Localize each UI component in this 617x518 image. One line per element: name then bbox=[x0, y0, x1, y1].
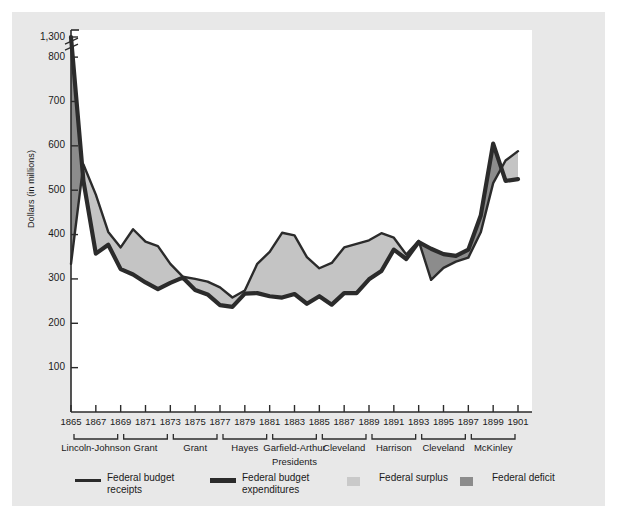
legend-label: Federal deficit bbox=[492, 472, 555, 484]
legend-swatch-surplus bbox=[347, 477, 360, 486]
president-bracket bbox=[273, 434, 317, 439]
president-bracket bbox=[124, 434, 168, 439]
y-tick-label: 400 bbox=[25, 228, 65, 239]
y-tick-label: 600 bbox=[25, 139, 65, 150]
legend-label: Federal budgetexpenditures bbox=[242, 472, 309, 495]
legend-label-line2: receipts bbox=[107, 484, 174, 496]
president-label: McKinley bbox=[443, 442, 543, 453]
president-bracket bbox=[223, 434, 267, 439]
x-axis-label: Presidents bbox=[235, 456, 355, 467]
legend-label-line1: Federal budget bbox=[242, 472, 309, 484]
legend-label-line1: Federal surplus bbox=[379, 472, 448, 484]
legend-label: Federal budgetreceipts bbox=[107, 472, 174, 495]
president-bracket bbox=[372, 434, 416, 439]
plot-background bbox=[71, 30, 532, 412]
president-bracket bbox=[322, 434, 366, 439]
president-bracket bbox=[471, 434, 515, 439]
y-tick-label: 800 bbox=[25, 51, 65, 62]
y-tick-label: 700 bbox=[25, 95, 65, 106]
x-tick-label: 1901 bbox=[498, 416, 538, 427]
president-bracket bbox=[74, 434, 118, 439]
y-tick-label: 200 bbox=[25, 317, 65, 328]
chart-plot-area bbox=[12, 12, 605, 506]
y-tick-label: 500 bbox=[25, 184, 65, 195]
president-bracket bbox=[422, 434, 466, 439]
chart-figure: Dollars (in millions) 100200300400500600… bbox=[12, 12, 605, 506]
legend-swatch-receipts bbox=[75, 479, 101, 482]
legend-label-line2: expenditures bbox=[242, 484, 309, 496]
y-tick-label: 300 bbox=[25, 272, 65, 283]
legend-label-line1: Federal deficit bbox=[492, 472, 555, 484]
y-tick-label: 100 bbox=[25, 361, 65, 372]
president-bracket bbox=[173, 434, 217, 439]
legend-label: Federal surplus bbox=[379, 472, 448, 484]
legend-swatch-expenditures bbox=[210, 478, 236, 483]
legend-label-line1: Federal budget bbox=[107, 472, 174, 484]
legend-swatch-deficit bbox=[460, 477, 473, 486]
y-tick-label: 1,300 bbox=[25, 31, 65, 42]
